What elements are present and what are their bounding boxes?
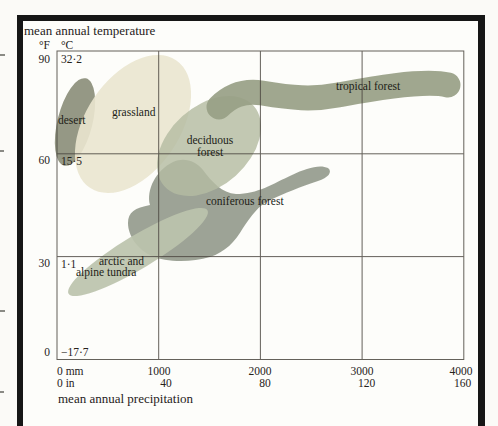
coniferous-forest-label: coniferous forest	[206, 195, 284, 207]
y-axis-unit-c: °C	[61, 39, 73, 51]
y-axis-unit-f: °F	[28, 39, 50, 51]
grassland-label: grassland	[112, 106, 155, 118]
y-tick-f-30: 30	[28, 257, 50, 269]
x-tick-in-40: 40	[146, 377, 186, 389]
x-tick-mm-3000: 3000	[342, 365, 382, 377]
x-tick-mm-0: 0 mm	[57, 365, 84, 377]
x-axis-title: mean annual precipitation	[58, 392, 193, 406]
x-tick-mm-2000: 2000	[240, 365, 280, 377]
deciduous-forest-label-line1: deciduous	[172, 134, 248, 146]
x-tick-in-160: 160	[443, 377, 483, 389]
tropical-region	[219, 83, 448, 107]
y-tick-c-15: 15·5	[61, 155, 82, 167]
x-tick-mm-4000: 4000	[441, 365, 481, 377]
tropical-forest-label: tropical forest	[336, 80, 400, 92]
y-tick-f-0: 0	[28, 346, 50, 358]
scanned-book-figure: mean annual temperature °F °C 90 60 30 0…	[0, 0, 498, 426]
tundra-label-line2: alpine tundra	[76, 266, 136, 278]
y-tick-c-1: 1·1	[61, 258, 76, 270]
y-tick-f-90: 90	[28, 53, 50, 65]
y-tick-c-32: 32·2	[61, 53, 82, 65]
deciduous-forest-label: deciduous forest	[172, 134, 248, 158]
desert-label: desert	[58, 114, 85, 126]
tundra-label-line1: arctic and	[99, 255, 144, 267]
y-axis-title: mean annual temperature	[24, 24, 155, 38]
x-tick-in-0: 0 in	[57, 377, 75, 389]
y-tick-f-60: 60	[28, 154, 50, 166]
x-tick-in-80: 80	[245, 377, 285, 389]
x-tick-in-120: 120	[347, 377, 387, 389]
deciduous-forest-label-line2: forest	[172, 146, 248, 158]
y-tick-c-minus17: −17·7	[61, 346, 89, 358]
x-tick-mm-1000: 1000	[139, 365, 179, 377]
